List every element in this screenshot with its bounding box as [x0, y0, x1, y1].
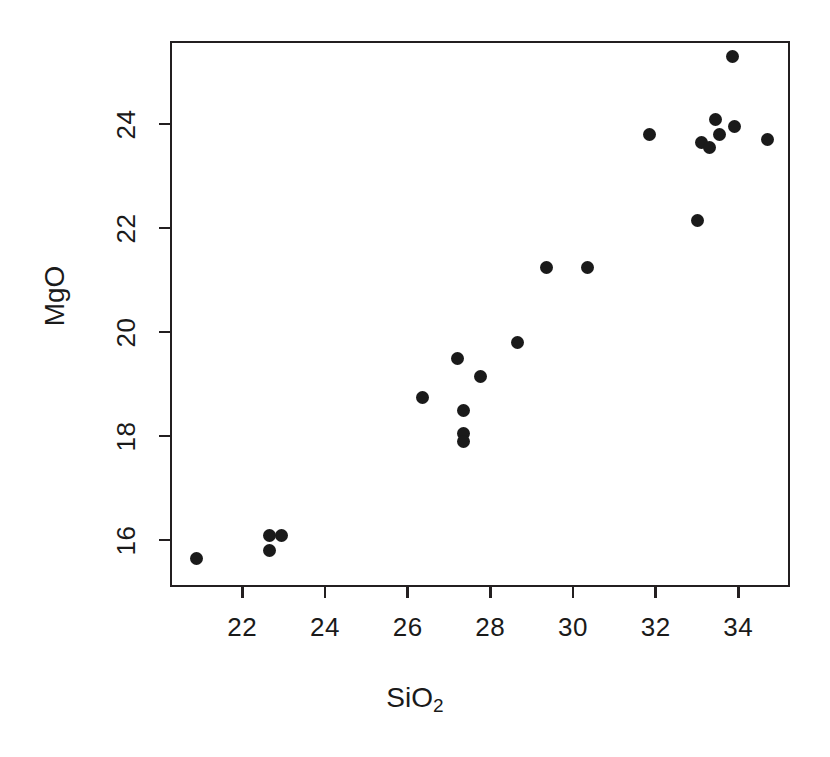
y-axis-tick-label: 24 — [111, 95, 142, 155]
x-axis-tick-label: 26 — [368, 612, 448, 643]
y-axis-tick-label: 18 — [111, 407, 142, 467]
x-axis-tick-label: 34 — [698, 612, 778, 643]
x-axis-title: SiO2 — [0, 682, 830, 714]
y-axis-tick-label: 16 — [111, 511, 142, 571]
y-axis-title: MgO — [0, 280, 135, 320]
x-axis-tick — [737, 587, 740, 598]
x-axis-title-base: SiO — [386, 682, 433, 713]
y-axis-tick-label: 22 — [111, 199, 142, 259]
x-axis-title-subscript: 2 — [433, 695, 444, 716]
y-axis-tick-label-wrap: 18 — [96, 421, 156, 451]
y-axis-tick — [159, 331, 170, 334]
x-axis-tick-label: 28 — [450, 612, 530, 643]
y-axis-tick-label-wrap: 22 — [96, 213, 156, 243]
y-axis-tick — [159, 123, 170, 126]
x-axis-tick-label: 22 — [202, 612, 282, 643]
x-axis-tick — [654, 587, 657, 598]
y-axis-tick — [159, 227, 170, 230]
x-axis-tick — [572, 587, 575, 598]
x-axis-tick-label: 24 — [285, 612, 365, 643]
y-axis-title-text: MgO — [39, 216, 71, 376]
y-axis-tick-label-wrap: 24 — [96, 109, 156, 139]
x-axis-tick — [406, 587, 409, 598]
y-axis-tick-label-wrap: 20 — [96, 317, 156, 347]
x-axis-tick — [241, 587, 244, 598]
y-axis-tick-label-wrap: 16 — [96, 525, 156, 555]
y-axis-tick — [159, 539, 170, 542]
plot-frame — [170, 41, 790, 587]
x-axis-tick — [324, 587, 327, 598]
y-axis-tick — [159, 435, 170, 438]
scatter-plot-figure: 1618202224 22242628303234 MgO SiO2 — [0, 0, 830, 757]
x-axis-tick-label: 32 — [616, 612, 696, 643]
x-axis-tick-label: 30 — [533, 612, 613, 643]
x-axis-tick — [489, 587, 492, 598]
